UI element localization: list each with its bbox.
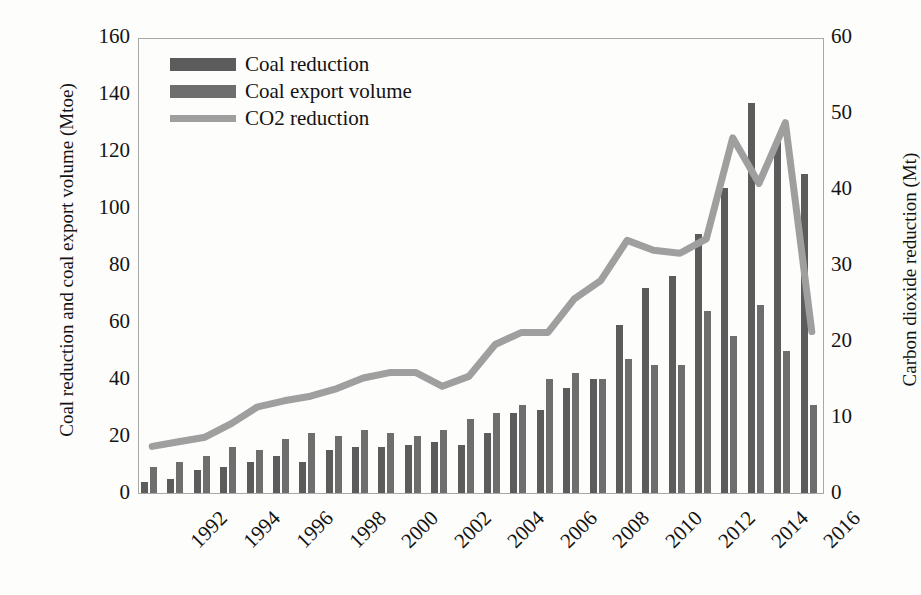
legend-swatch-line-icon	[170, 115, 236, 122]
x-tick-1992: 1992	[185, 506, 232, 553]
x-tick-2010: 2010	[660, 506, 707, 553]
x-tick-1996: 1996	[291, 506, 338, 553]
x-tick-2016: 2016	[819, 506, 866, 553]
legend-swatch-bar-icon	[170, 85, 236, 98]
x-tick-2014: 2014	[766, 506, 813, 553]
legend-item-coal-export-volume: Coal export volume	[170, 79, 412, 103]
x-tick-1998: 1998	[344, 506, 391, 553]
x-tick-2000: 2000	[397, 506, 444, 553]
x-tick-2004: 2004	[502, 506, 549, 553]
legend-item-co2-reduction: CO2 reduction	[170, 106, 412, 130]
legend-label: Coal export volume	[245, 79, 412, 104]
legend-label: CO2 reduction	[245, 106, 369, 131]
chart-legend: Coal reductionCoal export volumeCO2 redu…	[170, 52, 412, 133]
x-tick-2006: 2006	[555, 506, 602, 553]
legend-item-coal-reduction: Coal reduction	[170, 52, 412, 76]
legend-label: Coal reduction	[245, 52, 369, 77]
x-tick-2008: 2008	[608, 506, 655, 553]
x-tick-1994: 1994	[238, 506, 285, 553]
x-tick-2012: 2012	[713, 506, 760, 553]
x-tick-2002: 2002	[449, 506, 496, 553]
legend-swatch-bar-icon	[170, 58, 236, 71]
